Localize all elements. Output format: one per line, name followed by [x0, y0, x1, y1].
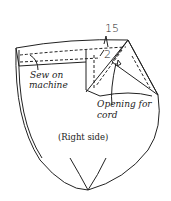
- right-side-label: (Right side): [58, 133, 108, 142]
- dimension-15-label: 15: [105, 23, 119, 34]
- opening-label-line2: cord: [97, 111, 118, 120]
- opening-label-line1: Opening for: [97, 100, 152, 109]
- sew-label-line1: Sew on: [30, 71, 63, 80]
- pouch-outline: [16, 40, 159, 190]
- dimension-2-label: 2: [104, 49, 111, 60]
- sew-label-line2: machine: [29, 81, 68, 90]
